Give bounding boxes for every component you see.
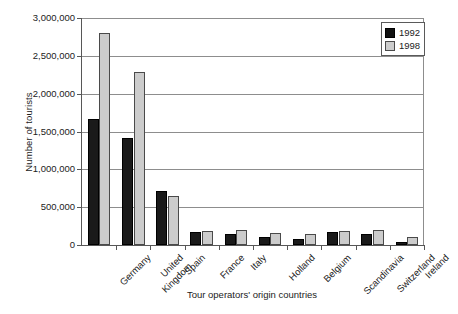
bar-1992-germany <box>88 119 99 245</box>
bar-1998-switzerland <box>373 230 384 245</box>
chart-legend: 19921998 <box>381 22 425 56</box>
bar-1992-holland <box>259 237 270 245</box>
y-axis-tick-label: 3,000,000 <box>5 12 75 23</box>
bar-group <box>190 18 213 245</box>
bar-1992-ireland <box>396 242 407 245</box>
x-axis-tick <box>390 245 391 250</box>
x-axis-label-italy: Italy <box>248 252 268 272</box>
bar-1998-united-kingdom <box>134 72 145 245</box>
bar-1998-holland <box>270 233 281 245</box>
x-axis-label-belgium: Belgium <box>321 252 353 284</box>
chart-figure: Number of tourists 0500,0001,000,0001,50… <box>0 0 458 314</box>
x-axis-tick <box>150 245 151 250</box>
bar-1992-scandinavia <box>327 232 338 245</box>
x-axis-title: Tour operators' origin countries <box>0 289 458 300</box>
bar-1998-ireland <box>407 237 418 245</box>
bar-1992-belgium <box>293 239 304 245</box>
bar-1992-france <box>190 232 201 245</box>
bar-1998-belgium <box>305 234 316 245</box>
x-axis-label-france: France <box>217 252 246 281</box>
y-axis-tick <box>77 245 82 246</box>
x-axis-tick <box>253 245 254 250</box>
x-axis-tick <box>321 245 322 250</box>
bar-1998-france <box>202 231 213 245</box>
y-axis-tick-label: 0 <box>5 239 75 250</box>
bar-group <box>259 18 282 245</box>
y-axis-tick <box>77 94 82 95</box>
y-axis-tick-label: 2,000,000 <box>5 88 75 99</box>
y-axis-tick-label: 1,500,000 <box>5 126 75 137</box>
legend-item-1998: 1998 <box>385 39 420 52</box>
x-axis-tick <box>287 245 288 250</box>
y-axis-tick <box>77 18 82 19</box>
y-axis-tick <box>77 56 82 57</box>
legend-item-label: 1998 <box>399 40 420 51</box>
bar-1992-spain <box>156 191 167 245</box>
bar-1998-italy <box>236 230 247 245</box>
x-axis-tick <box>116 245 117 250</box>
bar-1992-switzerland <box>361 234 372 245</box>
legend-item-1992: 1992 <box>385 26 420 39</box>
x-axis-tick <box>356 245 357 250</box>
legend-item-label: 1992 <box>399 27 420 38</box>
x-axis-tick <box>424 245 425 250</box>
y-axis-tick-label: 1,000,000 <box>5 163 75 174</box>
black-square-icon <box>385 28 395 38</box>
gray-square-icon <box>385 41 395 51</box>
bar-group <box>225 18 248 245</box>
bar-group <box>88 18 111 245</box>
x-axis-label-holland: Holland <box>287 252 318 283</box>
bar-group <box>156 18 179 245</box>
y-axis-tick <box>77 169 82 170</box>
y-axis-tick-label: 2,500,000 <box>5 50 75 61</box>
bar-group <box>293 18 316 245</box>
bar-1998-scandinavia <box>339 231 350 245</box>
x-axis-label-germany: Germany <box>118 252 154 288</box>
bar-1992-united-kingdom <box>122 138 133 245</box>
y-axis-tick-label: 500,000 <box>5 201 75 212</box>
bar-group <box>327 18 350 245</box>
x-axis-tick <box>185 245 186 250</box>
x-axis-tick <box>219 245 220 250</box>
bar-1998-germany <box>99 33 110 245</box>
plot-area <box>81 18 424 246</box>
y-axis-tick <box>77 207 82 208</box>
bar-group <box>122 18 145 245</box>
bar-1992-italy <box>225 234 236 245</box>
bar-1998-spain <box>168 196 179 245</box>
x-axis-title-text: Tour operators' origin countries <box>141 289 317 300</box>
y-axis-tick <box>77 132 82 133</box>
